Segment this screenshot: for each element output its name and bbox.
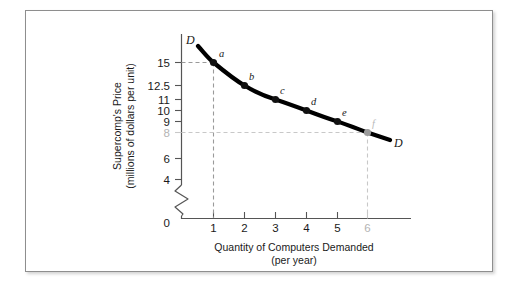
guide-lines [182,63,369,219]
data-point-label-e: e [342,107,347,118]
data-point-d [303,107,310,114]
y-tick-label-6: 6 [164,153,170,165]
data-point-b [241,82,248,89]
data-point-label-b: b [249,71,254,82]
data-point-label-f: f [372,118,377,129]
data-point-f [364,129,371,136]
data-point-label-c: c [280,85,285,96]
x-tick-labels: 1 2 3 4 5 6 [210,222,370,234]
x-axis-title: Quantity of Computers Demanded (per year… [214,241,373,266]
demand-curve-line [198,46,390,140]
x-axis-title-main: Quantity of Computers Demanded [214,241,373,253]
x-axis-title-sub: (per year) [271,254,317,266]
data-point-c [272,96,279,103]
curve-label-left: D [185,33,195,47]
curve-label-right: D [393,136,403,150]
x-tick-label-3: 3 [272,222,278,234]
data-point-a [210,59,217,66]
y-axis-break-icon [175,185,188,216]
y-tick-label-8: 8 [164,127,170,139]
y-axis-title: Supercomp's Price (millions of dollars p… [111,63,136,188]
x-tick-label-6: 6 [364,222,370,234]
origin-label: 0 [164,217,170,229]
data-point-e [334,118,341,125]
data-point-label-d: d [311,96,317,107]
x-tick-marks [214,212,368,219]
x-tick-label-2: 2 [241,222,247,234]
demand-curve-chart: 15 12.5 11 10 9 8 6 4 0 1 2 3 4 5 6 [26,11,494,273]
x-tick-label-1: 1 [210,222,216,234]
figure-frame: 15 12.5 11 10 9 8 6 4 0 1 2 3 4 5 6 [25,10,493,272]
y-axis-title-sub: (millions of dollars per unit) [124,63,136,188]
y-tick-marks [175,63,182,180]
y-tick-label-15: 15 [157,57,170,69]
y-tick-labels: 15 12.5 11 10 9 8 6 4 0 [148,57,171,229]
data-point-label-a: a [219,48,224,59]
x-tick-label-4: 4 [303,222,310,234]
y-tick-label-4: 4 [164,174,171,186]
y-tick-label-12_5: 12.5 [148,80,170,92]
y-axis-title-main: Supercomp's Price [111,82,123,170]
x-tick-label-5: 5 [334,222,340,234]
